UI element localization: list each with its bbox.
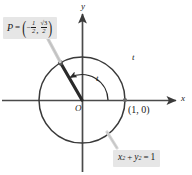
p-y-denominator: 2 (41, 27, 46, 35)
p-open-paren: ( (22, 20, 26, 35)
eq-y-exponent: 2 (139, 155, 142, 161)
eq-x-exponent: 2 (122, 155, 125, 161)
origin-label: O (75, 103, 82, 113)
unit-circle-figure: P = ( − 1 2 , √3 2 ) x2 + y2 = 1 x y O t… (0, 0, 192, 175)
circle-equation-label: x2 + y2 = 1 (113, 150, 160, 167)
p-equals: = (15, 23, 20, 32)
eq-value: 1 (151, 153, 156, 163)
point-one-zero-marker (123, 98, 127, 102)
inner-angle-label: t (96, 73, 99, 83)
p-comma: , (36, 26, 38, 35)
p-label-leader-core (48, 39, 60, 62)
intercept-label: (1, 0) (128, 104, 150, 115)
equation-label-leader-core (107, 132, 117, 148)
p-symbol: P (7, 23, 13, 33)
p-close-paren: ) (49, 20, 53, 35)
eq-equals: = (144, 153, 149, 162)
outer-arc-label: t (132, 52, 135, 62)
y-axis-label: y (81, 1, 85, 11)
p-y-fraction: √3 2 (40, 20, 49, 35)
eq-plus: + (127, 153, 132, 162)
x-axis-label: x (181, 93, 185, 103)
p-y-numerator: √3 (40, 20, 49, 27)
point-p-label: P = ( − 1 2 , √3 2 ) (3, 17, 57, 39)
radius-segment (61, 63, 83, 100)
